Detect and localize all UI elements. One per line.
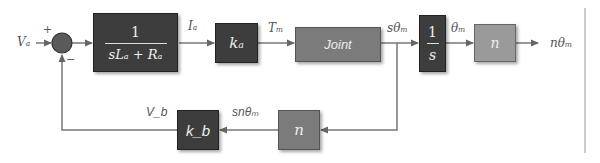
output-signal-label: nθₘ bbox=[550, 36, 572, 50]
fraction-bar bbox=[427, 43, 439, 44]
armature-numerator: 1 bbox=[131, 24, 140, 40]
back-emf-constant-block: k_b bbox=[177, 110, 219, 150]
summing-junction bbox=[52, 33, 72, 53]
plus-sign: + bbox=[43, 23, 52, 36]
armature-fraction: 1 sLₐ + Rₐ bbox=[105, 24, 167, 62]
gear-ratio-forward-block: n bbox=[474, 24, 516, 62]
gear-ratio-feedback-block: n bbox=[278, 110, 320, 150]
integrator-block: 1 s bbox=[419, 15, 446, 72]
gear-feedback-label: n bbox=[294, 121, 304, 139]
fraction-bar bbox=[105, 43, 167, 44]
armature-denominator: sLₐ + Rₐ bbox=[108, 47, 162, 62]
back-emf-label: k_b bbox=[186, 122, 210, 139]
feedback-velocity-label: snθₘ bbox=[232, 105, 258, 119]
torque-signal-label: Tₘ bbox=[268, 21, 283, 35]
minus-sign: − bbox=[66, 53, 75, 66]
torque-constant-block: kₐ bbox=[215, 23, 258, 63]
velocity-signal-label: sθₘ bbox=[387, 21, 408, 35]
joint-block: Joint bbox=[295, 27, 381, 62]
angle-signal-label: θₘ bbox=[451, 21, 466, 35]
joint-label: Joint bbox=[324, 37, 351, 52]
integrator-numerator: 1 bbox=[428, 24, 437, 40]
current-signal-label: Iₐ bbox=[188, 19, 197, 33]
gear-forward-label: n bbox=[490, 35, 499, 51]
integrator-denominator: s bbox=[429, 47, 436, 63]
armature-transfer-block: 1 sLₐ + Rₐ bbox=[93, 13, 178, 72]
torque-constant-label: kₐ bbox=[229, 34, 244, 52]
integrator-fraction: 1 s bbox=[427, 24, 439, 63]
input-signal-label: Vₐ bbox=[17, 35, 30, 49]
back-emf-signal-label: V_b bbox=[146, 105, 167, 119]
